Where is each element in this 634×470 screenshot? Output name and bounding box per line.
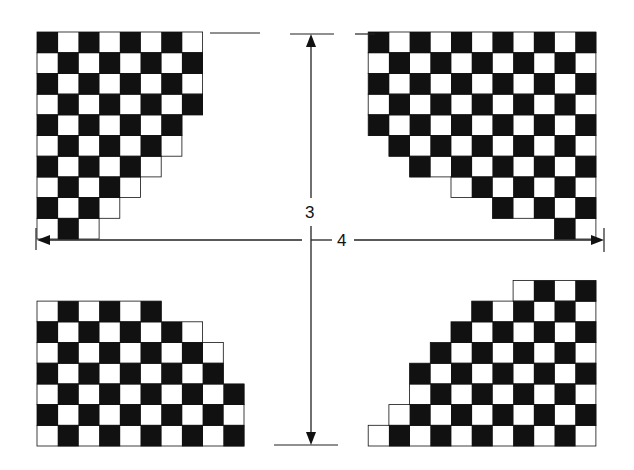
vertical-dimension-label: 3 <box>305 203 314 222</box>
quadrant-top-right <box>368 32 596 239</box>
arrowhead-up-icon <box>306 34 316 47</box>
horizontal-dimension <box>37 235 604 245</box>
quadrant-bottom-right <box>368 280 596 446</box>
quadrant-bottom-left <box>37 301 244 446</box>
checkerboard-dimension-diagram: 3 4 <box>0 0 634 470</box>
horizontal-dimension-label: 4 <box>337 231 346 250</box>
quadrant-top-left <box>37 32 203 239</box>
arrowhead-down-icon <box>306 432 316 445</box>
arrowhead-right-icon <box>591 235 604 245</box>
arrowhead-left-icon <box>37 235 50 245</box>
